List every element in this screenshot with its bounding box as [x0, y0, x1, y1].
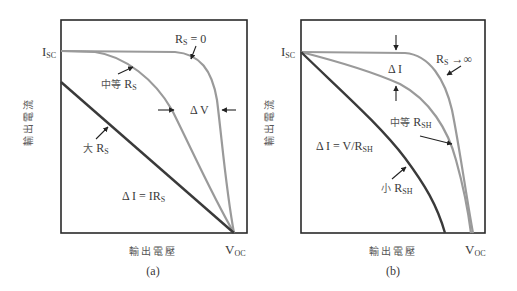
label-large-rs: 大 RS: [83, 141, 109, 156]
label-rs-infinity: RS →∞: [436, 52, 472, 67]
y-axis-label-b: 輸出電流: [263, 98, 275, 146]
label-medium-rs: 中等 RS: [101, 77, 137, 92]
y-axis-label-a: 輸出電流: [22, 98, 34, 146]
isc-label-b: ISC: [281, 44, 295, 60]
label-delta-i: Δ I: [388, 62, 402, 76]
arrow-large-rs: [96, 127, 108, 139]
label-delta-i-v-rsh: Δ I = V/RSH: [316, 139, 373, 154]
iv-curves-diagram: ISC VOC RS = 0 中等 RS Δ V 大 RS Δ I = IRS …: [0, 0, 517, 291]
voc-label-a: VOC: [225, 242, 246, 258]
label-delta-i-irs: Δ I = IRS: [122, 189, 165, 204]
caption-b: (b): [386, 264, 400, 278]
voc-label-b: VOC: [465, 242, 486, 258]
x-axis-label-b: 輸出電壓: [369, 245, 417, 257]
x-axis-label-a: 輸出電壓: [129, 245, 177, 257]
label-medium-rsh: 中等 RSH: [390, 115, 432, 130]
label-delta-v: Δ V: [190, 103, 209, 117]
isc-label-a: ISC: [42, 44, 56, 60]
label-small-rsh: 小 RSH: [381, 181, 413, 196]
arrow-medium-rs: [118, 67, 133, 74]
curve-medium-rs: [61, 51, 234, 233]
panel-b: ISC VOC Δ I RS →∞ 中等 RSH Δ I = V/RSH 小 R…: [263, 20, 486, 278]
arrow-rs-infinity: [447, 66, 461, 75]
caption-a: (a): [146, 264, 159, 278]
arrow-small-rsh: [392, 167, 406, 179]
panel-a: ISC VOC RS = 0 中等 RS Δ V 大 RS Δ I = IRS …: [22, 20, 247, 278]
label-rs-zero: RS = 0: [175, 32, 206, 47]
